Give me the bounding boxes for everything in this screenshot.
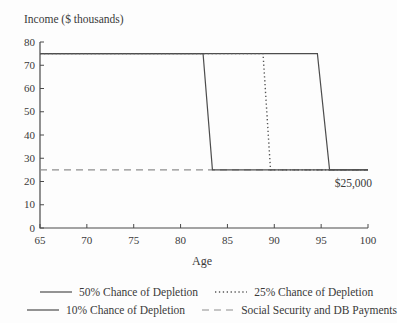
- y-tick-label: 20: [24, 175, 36, 187]
- x-tick-label: 75: [128, 234, 140, 246]
- legend-label: Social Security and DB Payments: [241, 304, 397, 316]
- y-tick-label: 80: [24, 36, 36, 48]
- chart-plot-area: 0102030405060708065707580859095100: [0, 0, 397, 275]
- y-tick-label: 30: [24, 152, 36, 164]
- y-tick-label: 40: [24, 129, 36, 141]
- x-tick-label: 80: [175, 234, 187, 246]
- y-tick-label: 0: [30, 222, 36, 234]
- x-axis-title: Age: [0, 254, 402, 269]
- legend-item: 25% Chance of Depletion: [215, 286, 373, 298]
- legend-item: 50% Chance of Depletion: [40, 286, 198, 298]
- x-tick-label: 95: [316, 234, 328, 246]
- dotted-line-swatch-icon: [215, 288, 247, 296]
- legend-row: 50% Chance of Depletion25% Chance of Dep…: [0, 283, 397, 301]
- legend-label: 50% Chance of Depletion: [79, 286, 198, 298]
- chart-legend: 50% Chance of Depletion25% Chance of Dep…: [0, 283, 397, 319]
- y-tick-label: 50: [24, 105, 36, 117]
- legend-item: 10% Chance of Depletion: [27, 304, 185, 316]
- y-tick-label: 10: [24, 198, 36, 210]
- x-tick-label: 90: [269, 234, 281, 246]
- x-tick-label: 70: [81, 234, 93, 246]
- legend-item: Social Security and DB Payments: [202, 304, 397, 316]
- ss-db-value-annotation: $25,000: [335, 177, 372, 189]
- dashed-line-swatch-icon: [202, 306, 234, 314]
- y-tick-label: 60: [24, 82, 36, 94]
- solid-line-swatch-icon: [40, 288, 72, 296]
- solid-line-swatch-icon: [27, 306, 59, 314]
- x-tick-label: 85: [222, 234, 234, 246]
- y-tick-label: 70: [24, 59, 36, 71]
- x-tick-label: 65: [35, 234, 47, 246]
- x-tick-label: 100: [360, 234, 377, 246]
- legend-label: 25% Chance of Depletion: [254, 286, 373, 298]
- legend-row: 10% Chance of DepletionSocial Security a…: [0, 301, 397, 319]
- legend-label: 10% Chance of Depletion: [66, 304, 185, 316]
